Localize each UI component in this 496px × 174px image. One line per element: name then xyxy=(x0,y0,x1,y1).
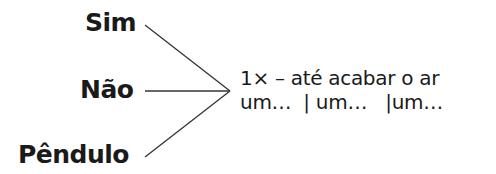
target-line-2: um… | um… |um… xyxy=(240,90,443,114)
option-sim: Sim xyxy=(85,8,136,37)
target-line-1: 1× – até acabar o ar xyxy=(240,66,439,90)
option-nao: Não xyxy=(80,75,133,104)
option-pendulo: Pêndulo xyxy=(18,140,129,169)
